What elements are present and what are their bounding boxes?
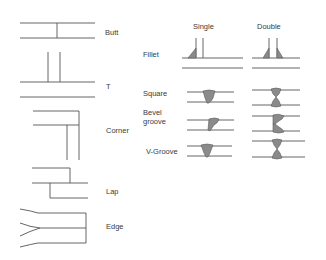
butt-label: Butt: [105, 28, 119, 37]
corner-joint-figure: [33, 111, 79, 160]
double-column-header: Double: [257, 22, 281, 31]
edge-label: Edge: [106, 222, 124, 231]
bevel-groove-single-figure: [187, 118, 234, 131]
fillet-label: Fillet: [143, 50, 160, 59]
square-double-figure: [252, 88, 300, 107]
butt-joint-figure: [20, 23, 95, 38]
v-groove-single-figure: [187, 144, 232, 157]
edge-joint-figure: [20, 209, 86, 247]
bevel-groove-label-line1: Bevel: [143, 108, 162, 117]
fillet-double-figure: [252, 38, 300, 68]
square-single-figure: [187, 90, 234, 103]
lap-label: Lap: [106, 187, 119, 196]
fillet-single-figure: [182, 38, 243, 68]
bevel-groove-label-line2: groove: [143, 117, 166, 126]
t-label: T: [106, 82, 111, 91]
t-joint-figure: [20, 52, 95, 97]
weld-joints-diagram: Butt T Corner Lap Edge Single Double Fil…: [0, 0, 326, 260]
lap-joint-figure: [32, 168, 88, 198]
single-column-header: Single: [193, 22, 214, 31]
v-groove-double-figure: [252, 139, 305, 159]
corner-label: Corner: [106, 126, 129, 135]
bevel-groove-double-figure: [252, 114, 300, 133]
square-label: Square: [143, 89, 167, 98]
v-groove-label: V-Groove: [146, 147, 178, 156]
